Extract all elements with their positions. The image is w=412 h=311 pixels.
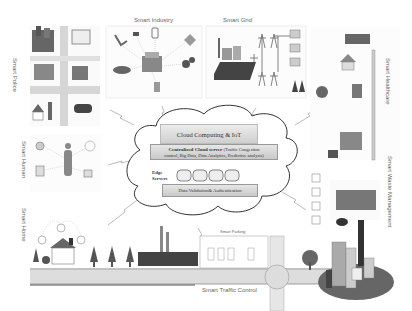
smart-parking-illustration [200,236,268,268]
edge-label-line2: Servers [152,176,167,182]
smart-police-illustration [30,26,100,126]
smart-grid-illustration [206,26,306,98]
label-smart-police: Smart Police [12,58,18,92]
cloud-shape [127,105,297,215]
label-smart-parking: Smart Parking [220,229,245,234]
cloud-title: Cloud Computing & IoT [177,131,241,138]
cloud-title-box: Cloud Computing & IoT [160,124,258,144]
smart-industry-illustration [106,26,202,98]
label-smart-waste: Smart Waste Management [387,156,393,227]
central-server-detail-2: control, Big Data, Data Analytics, Predi… [164,153,264,158]
label-smart-traffic: Smart Traffic Control [202,287,257,293]
data-validation-label: Data Validation& Authentication [178,188,241,193]
tree-row [33,246,134,267]
power-plant-illustration [138,226,198,266]
smart-waste-illustration [312,174,380,226]
label-smart-industry: Smart Industry [134,17,173,23]
edge-servers-label: Edge Servers [152,170,167,182]
central-server-label: Centralized Cloud server [168,147,222,152]
label-smart-human: Smart Human [21,141,27,178]
smart-human-illustration [30,134,102,192]
label-smart-healthcare: Smart Healthcare [385,58,391,105]
city-skyline-illustration [318,218,394,300]
label-smart-home: Smart Home [21,208,27,242]
label-smart-grid: Smart Grid [223,17,252,23]
central-server-box: Centralized Cloud server (Traffic Conges… [150,144,278,160]
central-server-detail: (Traffic Congestion [223,147,259,152]
tree-right [302,250,318,270]
data-validation-box: Data Validation& Authentication [162,184,258,197]
roundabout-illustration [265,236,289,311]
